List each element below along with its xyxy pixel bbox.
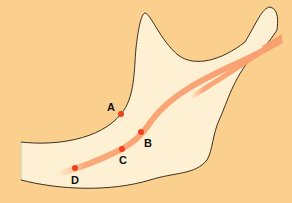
point-A-label: A xyxy=(107,101,115,113)
mandible-diagram: A B C D xyxy=(0,0,292,203)
point-B-label: B xyxy=(144,137,152,149)
point-D: D xyxy=(71,165,79,186)
point-D-marker xyxy=(72,165,78,171)
point-C-label: C xyxy=(119,154,127,166)
point-C-marker xyxy=(119,146,125,152)
point-A-marker xyxy=(118,111,124,117)
point-D-label: D xyxy=(71,174,79,186)
point-B-marker xyxy=(138,129,144,135)
